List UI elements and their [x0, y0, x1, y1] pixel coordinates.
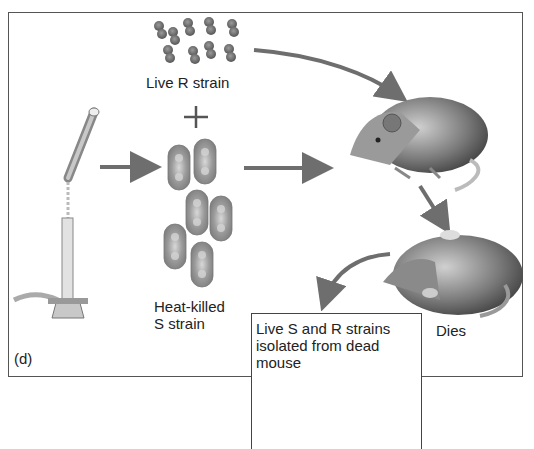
- inset-result-box: Live S and R strains isolated from dead …: [251, 313, 422, 449]
- inset-label: Live S and R strains isolated from dead …: [256, 320, 421, 371]
- arrow-mouse-to-dies: [420, 186, 444, 224]
- dead-mouse-icon: [383, 230, 523, 316]
- bunsen-burner-icon: [14, 108, 99, 318]
- live-mouse-icon: [350, 97, 488, 190]
- heat-killed-s-strain-cells: [164, 139, 232, 287]
- arrow-dead-mouse-to-inset: [325, 254, 390, 300]
- live-r-strain-cells: [154, 17, 239, 64]
- live-r-strain-label: Live R strain: [146, 74, 229, 91]
- panel-label: (d): [14, 350, 32, 367]
- arrow-live-r-to-mouse: [254, 50, 398, 95]
- plus-icon: [184, 106, 208, 128]
- heat-killed-label-line2: S strain: [154, 315, 205, 332]
- heat-killed-label-line1: Heat-killed: [154, 298, 225, 315]
- dies-label: Dies: [436, 322, 466, 339]
